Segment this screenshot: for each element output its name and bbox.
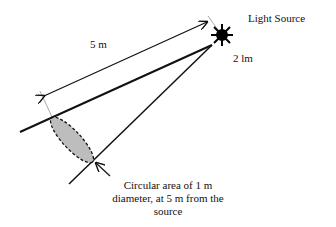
cone-ray-upper xyxy=(20,45,212,132)
caption-pointer-arrow xyxy=(96,163,110,176)
area-caption: Circular area of 1 m diameter, at 5 m fr… xyxy=(93,179,243,218)
light-source-star-icon xyxy=(211,24,233,46)
flux-label: 2 lm xyxy=(233,52,253,64)
light-source-label: Light Source xyxy=(248,12,305,24)
distance-label: 5 m xyxy=(90,38,107,50)
circular-area-ellipse xyxy=(45,112,99,168)
caption-line-3: source xyxy=(93,205,243,218)
dimension-guide-right xyxy=(208,16,218,30)
caption-line-1: Circular area of 1 m xyxy=(93,179,243,192)
caption-line-2: diameter, at 5 m from the xyxy=(93,192,243,205)
